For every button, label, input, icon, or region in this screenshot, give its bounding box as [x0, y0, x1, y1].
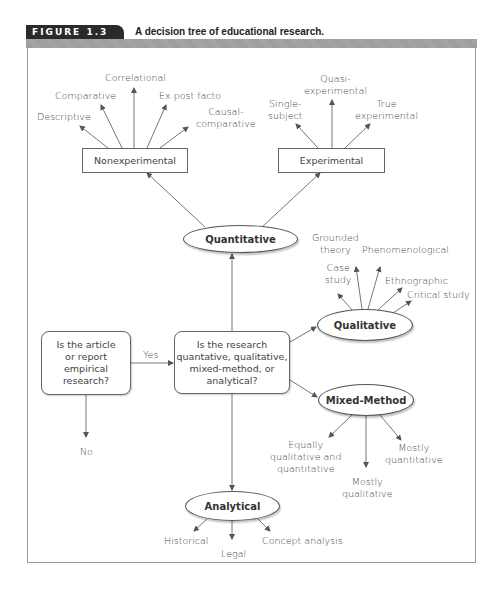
- label-case-line2: study: [325, 274, 351, 286]
- start-line1: Is the article: [42, 339, 130, 351]
- question-line3: mixed-method, or: [177, 363, 288, 375]
- label-quasi-experimental: Quasi- experimental: [304, 73, 367, 97]
- research-type-question: Is the research quantative, qualitative,…: [174, 331, 290, 394]
- label-equally-line2: qualitative and: [270, 451, 341, 463]
- label-case-line1: Case: [325, 262, 351, 274]
- mixed-method-node: Mixed-Method: [318, 384, 414, 416]
- label-mostly-qualitative: Mostly qualitative: [342, 476, 393, 500]
- label-quasi-line1: Quasi-: [304, 73, 367, 85]
- label-critical-study: Critical study: [407, 289, 470, 301]
- empirical-research-question: Is the article or report empirical resea…: [41, 331, 131, 395]
- yes-label: Yes: [143, 349, 158, 361]
- label-causal-comparative: Causal- comparative: [196, 106, 256, 130]
- start-line2: or report empirical: [42, 351, 130, 375]
- label-descriptive: Descriptive: [37, 111, 91, 123]
- label-true-line1: True: [355, 98, 418, 110]
- no-label: No: [80, 446, 93, 458]
- label-mostly-qual-line2: qualitative: [342, 488, 393, 500]
- label-equally-line3: quantitative: [270, 463, 341, 475]
- qualitative-node: Qualitative: [317, 309, 413, 341]
- label-equally: Equally qualitative and quantitative: [270, 439, 341, 475]
- question-line1: Is the research: [177, 339, 288, 351]
- start-line3: research?: [42, 375, 130, 387]
- label-legal: Legal: [221, 548, 246, 560]
- label-grounded-line1: Grounded: [312, 232, 359, 244]
- label-single-line1: Single-: [268, 98, 302, 110]
- question-line4: analytical?: [177, 375, 288, 387]
- label-phenomenological: Phenomenological: [362, 244, 449, 256]
- label-true-line2: experimental: [355, 110, 418, 122]
- label-historical: Historical: [164, 535, 209, 547]
- label-ethnographic: Ethnographic: [385, 275, 448, 287]
- analytical-node: Analytical: [185, 491, 280, 521]
- nonexperimental-box: Nonexperimental: [82, 148, 188, 173]
- label-correlational: Correlational: [105, 72, 166, 84]
- question-line2: quantative, qualitative,: [177, 351, 288, 363]
- experimental-box: Experimental: [278, 148, 385, 173]
- label-mostly-qual-line1: Mostly: [342, 476, 393, 488]
- label-mostly-quant-line2: quantitative: [385, 454, 443, 466]
- label-grounded-line2: theory: [312, 244, 359, 256]
- label-case-study: Case study: [325, 262, 351, 286]
- label-mostly-quant-line1: Mostly: [385, 442, 443, 454]
- label-single-line2: subject: [268, 110, 302, 122]
- label-comparative: Comparative: [55, 90, 116, 102]
- label-mostly-quantitative: Mostly quantitative: [385, 442, 443, 466]
- label-ex-post-facto: Ex post facto: [159, 90, 221, 102]
- label-causal-line2: comparative: [196, 118, 256, 130]
- label-grounded-theory: Grounded theory: [312, 232, 359, 256]
- quantitative-node: Quantitative: [183, 225, 298, 253]
- label-equally-line1: Equally: [270, 439, 341, 451]
- label-concept-analysis: Concept analysis: [262, 535, 343, 547]
- label-single-subject: Single- subject: [268, 98, 302, 122]
- label-causal-line1: Causal-: [196, 106, 256, 118]
- label-true-experimental: True experimental: [355, 98, 418, 122]
- label-quasi-line2: experimental: [304, 85, 367, 97]
